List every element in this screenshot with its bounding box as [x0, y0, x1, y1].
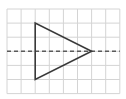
grid-diagram: [0, 0, 126, 99]
